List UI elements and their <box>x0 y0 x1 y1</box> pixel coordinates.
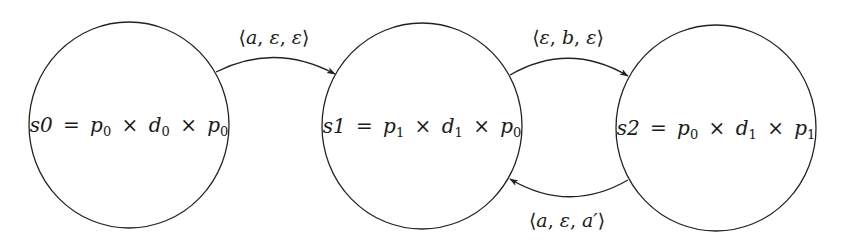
label-part: a <box>246 26 257 48</box>
label-part: ε <box>540 26 550 48</box>
label-part: ε <box>269 26 279 48</box>
left-angle: ⟨ <box>529 209 536 231</box>
state-s2: s2 = p0 × d1 × p1 <box>616 25 816 231</box>
var-p: p <box>90 113 103 137</box>
var-d: d <box>149 113 162 137</box>
comma: , <box>574 26 586 48</box>
subscript: 1 <box>396 125 404 140</box>
state-diagram: s0 = p0 × d0 × p0 s1 = p1 × d1 × p0 s2 =… <box>0 0 843 246</box>
transition-arrow <box>510 179 628 197</box>
times-sign: × <box>122 113 139 137</box>
subscript: 0 <box>162 124 170 139</box>
subscript: 1 <box>807 127 815 142</box>
var-p: p <box>794 116 807 140</box>
var-p: p <box>677 116 690 140</box>
label-part: ε <box>292 26 302 48</box>
times-sign: × <box>180 113 197 137</box>
comma: , <box>257 26 269 48</box>
left-angle: ⟨ <box>239 26 246 48</box>
times-sign: × <box>767 116 784 140</box>
transition-s0-s1: ⟨a, ε, ε⟩ <box>216 26 335 74</box>
subscript: 0 <box>690 127 698 142</box>
times-sign: × <box>473 114 490 138</box>
var-d: d <box>442 114 455 138</box>
label-part: a <box>536 209 547 231</box>
state-name: s2 <box>617 116 640 140</box>
equals-sign: = <box>356 114 373 138</box>
equals-sign: = <box>650 116 667 140</box>
var-d: d <box>736 116 749 140</box>
transition-label: ⟨a, ε, a′⟩ <box>529 209 605 231</box>
state-name: s1 <box>323 114 346 138</box>
state-name: s0 <box>30 113 53 137</box>
var-p: p <box>207 113 220 137</box>
subscript: 1 <box>749 127 757 142</box>
var-p: p <box>500 114 513 138</box>
left-angle: ⟨ <box>532 26 539 48</box>
transition-arrow <box>216 57 335 74</box>
transition-label: ⟨a, ε, ε⟩ <box>239 26 310 48</box>
comma: , <box>570 209 582 231</box>
times-sign: × <box>709 116 726 140</box>
comma: , <box>550 26 562 48</box>
right-angle: ⟩ <box>302 26 309 48</box>
transition-s2-s1: ⟨a, ε, a′⟩ <box>510 179 628 231</box>
times-sign: × <box>415 114 432 138</box>
var-p: p <box>383 114 396 138</box>
comma: , <box>280 26 292 48</box>
right-angle: ⟩ <box>598 209 605 231</box>
comma: , <box>548 209 560 231</box>
equals-sign: = <box>63 113 80 137</box>
transition-label: ⟨ε, b, ε⟩ <box>532 26 604 48</box>
label-part: a′ <box>582 209 598 231</box>
subscript: 0 <box>103 124 111 139</box>
label-part: b <box>562 26 574 48</box>
subscript: 1 <box>455 125 463 140</box>
transition-arrow <box>510 58 628 76</box>
state-s0: s0 = p0 × d0 × p0 <box>29 22 229 228</box>
right-angle: ⟩ <box>596 26 603 48</box>
subscript: 0 <box>220 124 228 139</box>
state-s1: s1 = p1 × d1 × p0 <box>322 23 522 229</box>
label-part: ε <box>586 26 596 48</box>
transition-s1-s2: ⟨ε, b, ε⟩ <box>510 26 628 76</box>
label-part: ε <box>560 209 570 231</box>
subscript: 0 <box>513 125 521 140</box>
